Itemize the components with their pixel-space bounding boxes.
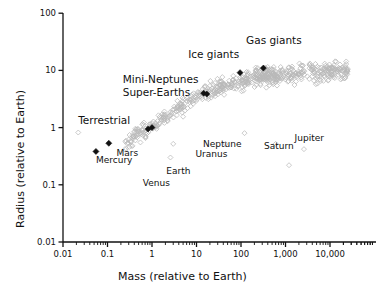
annotation-earth: Earth xyxy=(166,167,190,176)
annotation-super-earths: Super-Earths xyxy=(123,87,191,98)
annotation-saturn: Saturn xyxy=(264,142,294,151)
y-tick-label: 0.1 xyxy=(0,180,56,190)
annotation-ice-giants: Ice giants xyxy=(188,49,239,60)
x-tick-label: 0.1 xyxy=(86,249,130,259)
annotation-uranus: Uranus xyxy=(196,150,228,159)
x-tick-label: 10,000 xyxy=(308,249,352,259)
y-tick-label: 100 xyxy=(0,8,56,18)
annotation-gas-giants: Gas giants xyxy=(246,35,302,46)
x-tick-label: 1,000 xyxy=(264,249,308,259)
x-tick-label: 0.01 xyxy=(41,249,85,259)
y-axis-title: Radius (relative to Earth) xyxy=(14,90,27,228)
x-axis-title: Mass (relative to Earth) xyxy=(118,270,247,283)
axis-lines xyxy=(63,13,376,242)
x-tick-label: 10 xyxy=(175,249,219,259)
annotation-mars: Mars xyxy=(117,149,139,158)
annotation-mini-neptunes: Mini-Neptunes xyxy=(123,74,199,85)
annotation-neptune: Neptune xyxy=(203,140,241,149)
y-tick-label: 10 xyxy=(0,65,56,75)
y-tick-label: 0.01 xyxy=(0,237,56,247)
x-tick-label: 1 xyxy=(130,249,174,259)
annotation-venus: Venus xyxy=(143,179,170,188)
y-tick-label: 1 xyxy=(0,123,56,133)
annotation-terrestrial: Terrestrial xyxy=(78,115,130,126)
mass-radius-scatter-figure: Radius (relative to Earth) Mass (relativ… xyxy=(0,0,383,293)
x-tick-label: 100 xyxy=(219,249,263,259)
annotation-jupiter: Jupiter xyxy=(295,134,324,143)
